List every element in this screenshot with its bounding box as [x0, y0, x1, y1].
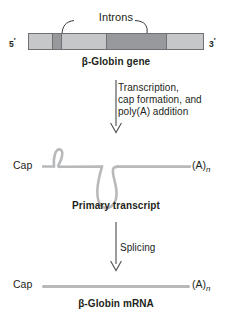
gene-segment-exon-2 [61, 34, 105, 49]
mrna-strand [42, 285, 190, 288]
transcription-step-line1: Transcription, [118, 82, 179, 93]
mrna-caption: β-Globin mRNA [0, 298, 232, 309]
splicing-step-label: Splicing [120, 242, 155, 254]
gene-segment-exon-3 [166, 34, 203, 49]
gene-segment-intron-1 [52, 34, 61, 49]
gene-caption: β-Globin gene [0, 56, 232, 67]
gene-expression-diagram: Introns 5′ 3′ β-Globin gene Transcriptio… [0, 0, 232, 319]
primary-transcript-caption: Primary transcript [0, 200, 232, 211]
gene-bar [28, 33, 204, 50]
transcription-step-label: Transcription,cap formation, andpoly(A) … [118, 82, 202, 119]
mrna-polya-label: (A)n [192, 278, 210, 293]
three-prime-label: 3′ [209, 36, 216, 49]
five-prime-label: 5′ [9, 36, 16, 49]
gene-stage: Introns 5′ 3′ β-Globin gene [0, 0, 232, 78]
transcript-polya-label: (A)n [192, 159, 210, 174]
transcription-step-line2: cap formation, and [118, 94, 202, 105]
transcript-cap-label: Cap [13, 159, 32, 171]
gene-segment-intron-2 [106, 34, 167, 49]
gene-segment-exon-1 [29, 34, 52, 49]
transcription-step-line3: poly(A) addition [118, 106, 188, 117]
mrna-stage: Cap (A)n [0, 275, 232, 315]
mrna-cap-label: Cap [13, 278, 32, 290]
